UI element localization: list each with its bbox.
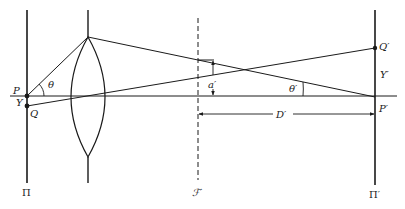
label-y-prime: Y′ xyxy=(380,69,390,80)
label-a-prime: a′ xyxy=(208,79,217,90)
point-p xyxy=(25,94,30,99)
lens xyxy=(71,37,105,157)
label-theta: θ xyxy=(48,79,54,90)
theta-arc xyxy=(39,84,44,96)
point-q-prime xyxy=(373,46,377,50)
label-focal-plane: ℱ′ xyxy=(192,187,203,198)
label-p: P xyxy=(12,85,20,96)
ray-p-to-lens-top xyxy=(27,37,88,96)
ray-lens-top-to-p-prime xyxy=(88,37,375,97)
label-y: Y xyxy=(16,97,24,108)
label-q: Q xyxy=(30,108,38,119)
label-d-prime: D′ xyxy=(275,109,287,120)
label-image-plane: Π′ xyxy=(369,189,381,200)
label-q-prime: Q′ xyxy=(379,41,390,52)
point-q xyxy=(25,104,30,109)
label-object-plane: Π xyxy=(22,187,31,198)
label-p-prime: P′ xyxy=(378,103,389,114)
optical-diagram: P Y Q θ a′ θ′ D′ Q′ Y′ P′ Π ℱ′ Π′ xyxy=(0,0,405,209)
label-theta-prime: θ′ xyxy=(289,83,298,94)
